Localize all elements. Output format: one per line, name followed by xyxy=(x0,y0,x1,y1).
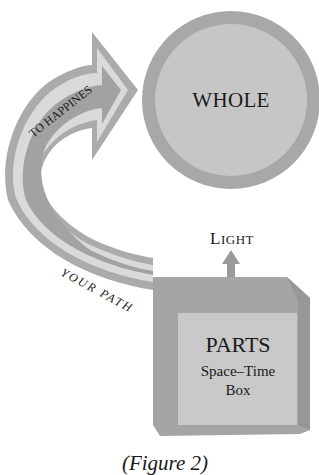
light-label: LIGHT xyxy=(210,229,254,249)
whole-label: WHOLE xyxy=(181,88,281,113)
diagram-canvas: TO HAPPINES YOUR PATH xyxy=(0,0,319,475)
parts-subtitle-line2: Box xyxy=(178,382,298,399)
light-arrow-icon xyxy=(222,250,240,278)
parts-subtitle-line1: Space–Time xyxy=(178,363,298,380)
light-label-rest: IGHT xyxy=(221,232,254,247)
path-arrow xyxy=(5,32,153,290)
figure-caption: (Figure 2) xyxy=(100,451,230,475)
light-label-cap: L xyxy=(210,229,221,248)
parts-title: PARTS xyxy=(178,332,298,358)
